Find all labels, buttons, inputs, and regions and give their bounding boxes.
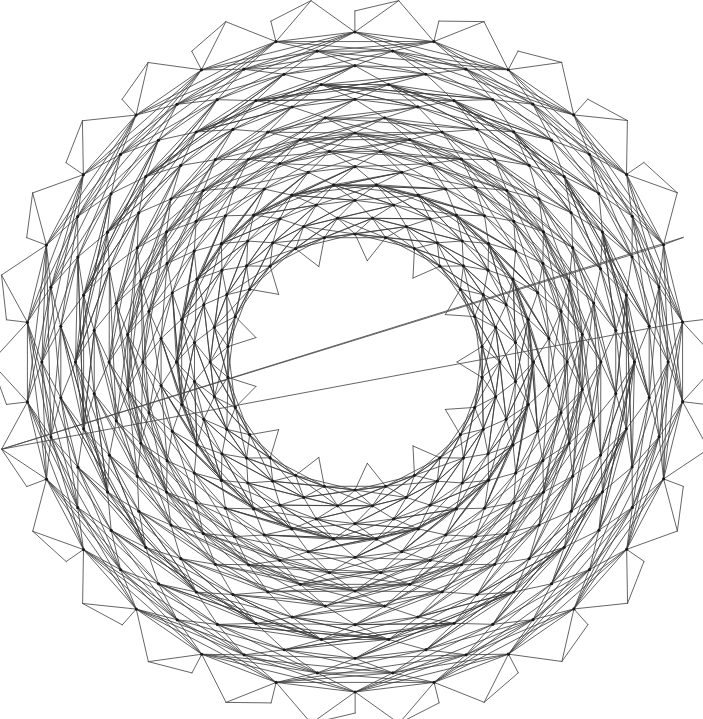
figure-root — [0, 0, 703, 719]
clipped-header-text — [0, 0, 703, 5]
annular-mesh-canvas — [0, 0, 703, 719]
